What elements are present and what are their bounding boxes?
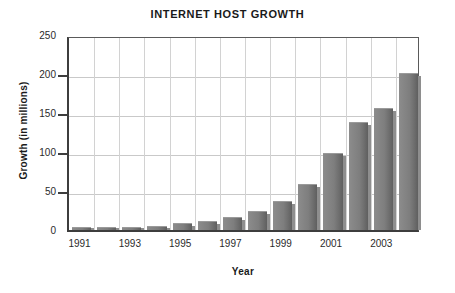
x-tick-label: 1991 [58, 238, 102, 249]
x-axis-labels: 1991199319951997199920012003 [0, 238, 455, 256]
x-tick-label: 1995 [158, 238, 202, 249]
internet-host-growth-chart: INTERNET HOST GROWTH Growth (in millions… [0, 0, 455, 293]
bar [198, 221, 217, 230]
plot-area [67, 37, 419, 232]
x-axis-title: Year [67, 266, 419, 277]
y-tick-label: 200 [4, 69, 56, 80]
x-tick-label: 1997 [208, 238, 252, 249]
bar [374, 108, 393, 230]
bar [72, 227, 91, 230]
bar [97, 227, 116, 230]
y-tick-label: 150 [4, 108, 56, 119]
bar [349, 122, 368, 230]
x-tick-label: 1993 [108, 238, 152, 249]
y-tick-label: 250 [4, 30, 56, 41]
y-tick-mark [58, 75, 68, 77]
bar [223, 217, 242, 230]
y-tick-label: 0 [4, 225, 56, 236]
bar [298, 184, 317, 230]
bars-series [69, 38, 418, 230]
bar [147, 226, 166, 230]
y-tick-label: 50 [4, 186, 56, 197]
bar [248, 211, 267, 231]
y-tick-mark [58, 192, 68, 194]
y-tick-label: 100 [4, 147, 56, 158]
x-tick-label: 1999 [259, 238, 303, 249]
bar [173, 223, 192, 230]
y-tick-mark [58, 153, 68, 155]
bar [323, 153, 342, 230]
chart-title: INTERNET HOST GROWTH [0, 8, 455, 20]
bar [273, 201, 292, 230]
bar [399, 73, 418, 230]
bar [122, 227, 141, 230]
x-tick-label: 2001 [309, 238, 353, 249]
y-tick-mark [58, 114, 68, 116]
x-tick-label: 2003 [359, 238, 403, 249]
